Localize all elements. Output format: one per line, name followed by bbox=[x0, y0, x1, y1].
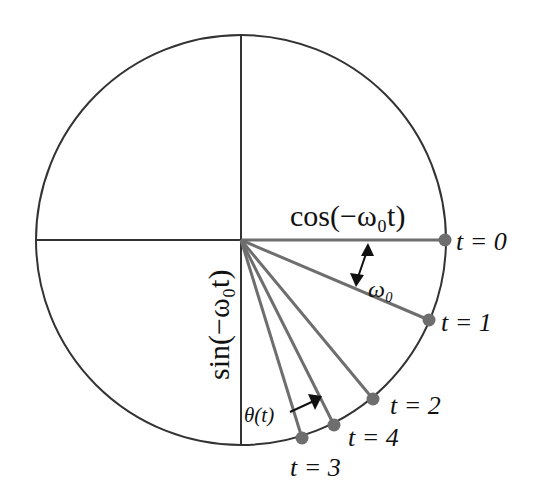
omega-label: ω₀ bbox=[368, 276, 393, 302]
cos-label: cos(−ω₀t) bbox=[290, 199, 405, 233]
spoke-t1 bbox=[241, 240, 429, 320]
theta-arrow-icon bbox=[290, 394, 322, 412]
label-t2: t = 2 bbox=[390, 391, 441, 420]
point-t0 bbox=[439, 234, 452, 247]
label-t1: t = 1 bbox=[441, 308, 492, 337]
point-t3 bbox=[296, 432, 309, 445]
sin-label: sin(−ω₀t) bbox=[202, 270, 236, 380]
point-t4 bbox=[328, 419, 341, 432]
label-t0: t = 0 bbox=[456, 227, 507, 256]
point-t1 bbox=[423, 314, 436, 327]
point-t2 bbox=[367, 393, 380, 406]
label-t3: t = 3 bbox=[290, 453, 341, 482]
label-t4: t = 4 bbox=[348, 423, 399, 452]
theta-label: θ(t) bbox=[244, 403, 274, 427]
phasor-diagram: cos(−ω₀t) ω₀ θ(t) sin(−ω₀t) t = 0 t = 1 … bbox=[0, 0, 540, 499]
spoke-t2 bbox=[241, 240, 373, 399]
